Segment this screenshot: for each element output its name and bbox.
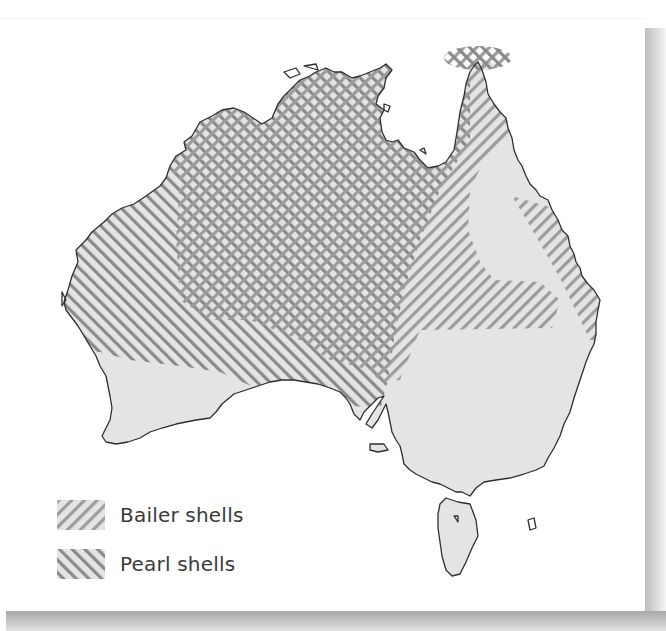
groote-eylandt-outline	[384, 104, 390, 112]
bathurst-island-outline	[304, 64, 318, 70]
card-shadow-bottom	[6, 611, 666, 631]
card-shadow-right	[645, 28, 666, 631]
legend-item-bailer: Bailer shells	[57, 500, 244, 530]
hatch-back-swatch-icon	[57, 549, 105, 579]
legend-label-bailer: Bailer shells	[120, 503, 244, 527]
wellesley-island-outline	[420, 148, 426, 154]
torres-strait-patch	[444, 46, 512, 70]
hatch-forward-swatch-icon	[57, 500, 105, 530]
legend-item-pearl: Pearl shells	[57, 549, 235, 579]
legend-label-pearl: Pearl shells	[120, 552, 235, 576]
flinders-island-outline	[528, 518, 536, 530]
melville-island-outline	[284, 68, 300, 78]
